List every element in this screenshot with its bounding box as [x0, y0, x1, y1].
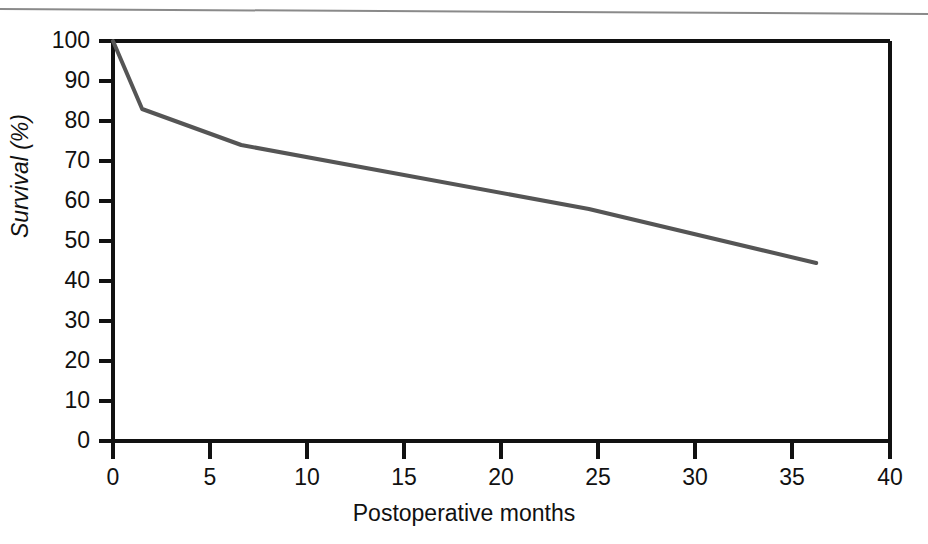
figure-container: 100 90 80 70 60 50 40 30 20 10 0 0 5 10 … [0, 0, 928, 544]
y-tick-label-100: 100 [18, 29, 90, 52]
y-tick-label-30: 30 [18, 309, 90, 332]
y-tick-label-40: 40 [18, 269, 90, 292]
x-tick-label-10: 10 [277, 466, 337, 489]
x-tick-label-35: 35 [762, 466, 822, 489]
x-tick-label-0: 0 [83, 466, 143, 489]
x-axis-title: Postoperative months [0, 500, 928, 527]
x-tick-label-5: 5 [180, 466, 240, 489]
x-tick-label-25: 25 [568, 466, 628, 489]
x-tick-label-30: 30 [665, 466, 725, 489]
x-tick-label-15: 15 [374, 466, 434, 489]
y-tick-label-90: 90 [18, 69, 90, 92]
survival-curve-line [113, 41, 816, 263]
y-axis-title: Survival (%) [7, 96, 34, 256]
x-tick-label-40: 40 [860, 466, 920, 489]
y-tick-label-0: 0 [18, 429, 90, 452]
x-axis-ticks [113, 441, 890, 459]
y-axis-ticks [99, 41, 113, 441]
y-tick-label-20: 20 [18, 349, 90, 372]
y-axis-title-wrapper: Survival (%) [7, 96, 39, 256]
survival-plot [0, 0, 928, 544]
x-tick-label-20: 20 [471, 466, 531, 489]
y-tick-label-10: 10 [18, 389, 90, 412]
plot-frame [113, 41, 890, 441]
